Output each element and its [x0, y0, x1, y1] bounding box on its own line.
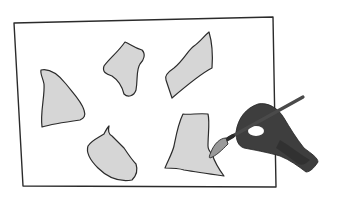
- illustration: [0, 0, 338, 199]
